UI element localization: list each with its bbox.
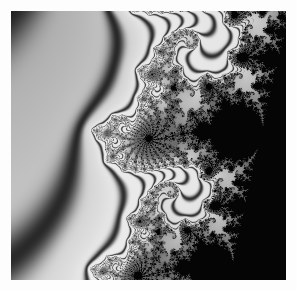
figure-title: Mandelbrot Set Fractal: [0, 0, 1, 1]
fractal-plot-area: [11, 11, 286, 280]
fractal-figure: Mandelbrot Set Fractal Grayscale Mandelb…: [0, 0, 297, 291]
mandelbrot-canvas: [11, 11, 286, 280]
figure-alt-text: Grayscale Mandelbrot set fractal zoom sh…: [0, 0, 1, 1]
